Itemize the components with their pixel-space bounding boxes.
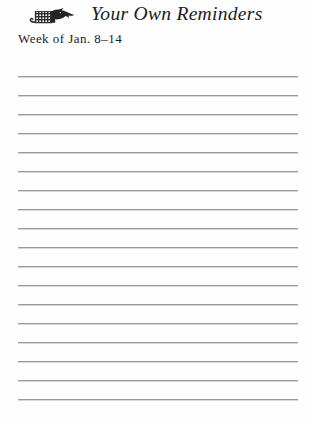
page-header: Your Own Reminders [0, 0, 313, 30]
rule-line [18, 247, 298, 248]
plaid-animal-silhouette-icon [29, 7, 75, 24]
week-label: Week of Jan. 8–14 [18, 31, 122, 47]
rule-line [18, 399, 298, 400]
rule-line [18, 190, 298, 191]
rule-line [18, 95, 298, 96]
rule-line [18, 152, 298, 153]
ruled-writing-area [0, 0, 313, 423]
page-title: Your Own Reminders [91, 1, 263, 27]
rule-line [18, 228, 298, 229]
rule-line [18, 304, 298, 305]
rule-line [18, 323, 298, 324]
rule-line [18, 380, 298, 381]
rule-line [18, 266, 298, 267]
rule-line [18, 171, 298, 172]
reminders-page: Your Own Reminders Week of Jan. 8–14 [0, 0, 313, 423]
rule-line [18, 361, 298, 362]
rule-line [18, 133, 298, 134]
rule-line [18, 342, 298, 343]
rule-line [18, 209, 298, 210]
rule-line [18, 76, 298, 77]
rule-line [18, 285, 298, 286]
rule-line [18, 114, 298, 115]
